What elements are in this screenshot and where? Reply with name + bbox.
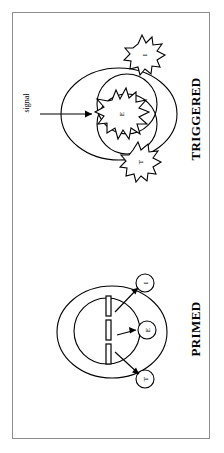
leader-line-t <box>115 352 139 374</box>
primed-panel: I E T <box>57 274 167 388</box>
primed-node-letter-e: E <box>144 328 152 332</box>
primed-node-i: I <box>136 274 154 292</box>
signal-arrow <box>40 111 92 118</box>
primed-node-e: E <box>138 321 156 339</box>
explosion-burst-e: E <box>95 88 149 139</box>
rod-segment-3 <box>106 344 111 364</box>
signal-label: signal <box>22 86 32 120</box>
rod-segment-2 <box>106 320 111 340</box>
panel-caption-triggered: TRIGGERED <box>188 69 204 169</box>
figure-root: E I T <box>0 0 224 453</box>
panel-caption-primed: PRIMED <box>188 287 204 371</box>
starburst-i: I <box>124 35 165 75</box>
primed-node-letter-t: T <box>142 376 150 381</box>
primed-node-t: T <box>136 370 154 388</box>
starburst-t: T <box>120 142 161 182</box>
explosion-letter-e: E <box>118 112 126 116</box>
starburst-letter-t: T <box>137 159 145 164</box>
rod-segment-1 <box>106 296 111 316</box>
leader-line-e <box>117 327 136 335</box>
triggered-panel: E I T <box>40 35 177 182</box>
segmented-rod <box>106 296 111 364</box>
diagram-canvas: E I T <box>0 0 224 453</box>
